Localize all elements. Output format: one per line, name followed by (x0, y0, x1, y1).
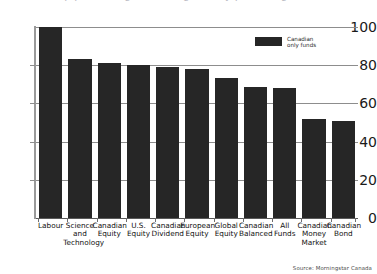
bar-chart: 020406080100 LabourScienceandTechnologyC… (0, 0, 377, 274)
x-axis-label-global-equity: GlobalEquity (210, 222, 243, 239)
y-tick-mark-20 (30, 180, 35, 181)
x-axis-label-canadian-equity: CanadianEquity (93, 222, 126, 239)
x-axis-label-line: Equity (210, 230, 243, 238)
x-axis-label-line: Technology (63, 239, 96, 247)
x-axis-label-canadian-bond: CanadianBond (327, 222, 360, 239)
bar-canadian-dividend (156, 67, 179, 218)
gridline-100 (36, 27, 358, 28)
x-axis-label-line: Equity (93, 230, 126, 238)
x-axis-label-line: Market (297, 239, 330, 247)
plot-area (36, 27, 358, 218)
bar-canadian-equity (98, 63, 121, 218)
legend-swatch-canadian-only-funds (255, 37, 282, 46)
x-axis-label-line: Equity (180, 230, 213, 238)
x-axis-label-european-equity: EuropeanEquity (180, 222, 213, 239)
bar-canadian-bond (332, 121, 355, 218)
x-axis-label-line: Bond (327, 230, 360, 238)
bar-u-s-equity (127, 65, 150, 218)
x-axis-label-canadian-dividend: CanadianDividend (151, 222, 184, 239)
x-axis-label-line: Dividend (151, 230, 184, 238)
bar-canadian-money-market (302, 119, 325, 218)
x-axis-label-labour: Labour (34, 222, 67, 230)
bar-labour (39, 27, 62, 218)
x-axis-label-line: Labour (34, 222, 67, 230)
x-axis-label-all-funds: AllFunds (268, 222, 301, 239)
y-tick-mark-40 (30, 142, 35, 143)
x-axis-label-line: Equity (122, 230, 155, 238)
bar-european-equity (185, 69, 208, 218)
y-tick-mark-60 (30, 103, 35, 104)
gridline-0 (36, 218, 358, 219)
x-axis-label-line: Balanced (239, 230, 272, 238)
bar-canadian-balanced (244, 87, 267, 218)
bar-science-and-technology (68, 59, 91, 218)
x-axis-label-line: Funds (268, 230, 301, 238)
chart-legend: Canadian only funds (255, 36, 316, 49)
bar-global-equity (215, 78, 238, 218)
legend-label-canadian-only-funds: Canadian only funds (287, 36, 316, 49)
x-axis-label-canadian-money-market: CanadianMoneyMarket (297, 222, 330, 247)
x-axis-label-science-and-technology: ScienceandTechnology (63, 222, 96, 247)
y-tick-mark-80 (30, 65, 35, 66)
source-note: Source: Morningstar Canada (293, 265, 372, 271)
bar-all-funds (273, 88, 296, 218)
x-tick-end (355, 218, 356, 222)
x-axis-label-u-s-equity: U.S.Equity (122, 222, 155, 239)
x-axis-label-canadian-balanced: CanadianBalanced (239, 222, 272, 239)
